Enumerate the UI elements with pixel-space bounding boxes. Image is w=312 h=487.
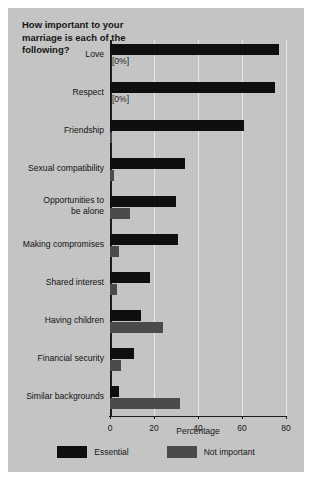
bar-essential-respect [110, 82, 275, 93]
bar-not-important-making-compromises [110, 246, 119, 257]
legend-item-not-important: Not important [167, 446, 255, 458]
category-label-love: Love [8, 49, 104, 60]
bar-essential-love [110, 44, 279, 55]
bar-not-important-shared-interest [110, 284, 117, 295]
x-tick-20 [154, 416, 155, 419]
bar-essential-opportunities-to-be-alone [110, 196, 176, 207]
bar-essential-shared-interest [110, 272, 150, 283]
bar-not-important-having-children [110, 322, 163, 333]
bar-not-important-sexual-compatibility [110, 170, 114, 181]
category-label-financial-security: Financial security [8, 353, 104, 364]
bar-essential-similar-backgrounds [110, 386, 119, 397]
zero-annotation-respect: [0%] [112, 94, 129, 105]
category-label-making-compromises: Making compromises [8, 239, 104, 250]
bar-not-important-friendship [110, 132, 112, 143]
x-tick-80 [286, 416, 287, 419]
bar-essential-friendship [110, 120, 244, 131]
x-tick-0 [110, 416, 111, 419]
legend-swatch-essential [57, 446, 87, 458]
bar-essential-having-children [110, 310, 141, 321]
bar-essential-sexual-compatibility [110, 158, 185, 169]
bar-not-important-opportunities-to-be-alone [110, 208, 130, 219]
category-label-similar-backgrounds: Similar backgrounds [8, 391, 104, 402]
x-tick-60 [242, 416, 243, 419]
category-label-sexual-compatibility: Sexual compatibility [8, 163, 104, 174]
chart-figure: How important to your marriage is each o… [8, 8, 304, 472]
legend-swatch-not-important [167, 446, 197, 458]
category-label-opportunities-to-be-alone: Opportunities to be alone [8, 195, 104, 216]
x-tick-40 [198, 416, 199, 419]
plot-area: 0 20 40 60 80 Love [0%] Respect [0%] Fri… [110, 40, 286, 416]
legend-label-not-important: Not important [204, 447, 255, 457]
legend-label-essential: Essential [94, 447, 129, 457]
chart-legend: Essential Not important [8, 446, 304, 458]
category-label-having-children: Having children [8, 315, 104, 326]
zero-annotation-love: [0%] [112, 56, 129, 67]
gridline-20 [154, 40, 155, 416]
gridline-40 [198, 40, 199, 416]
gridline-60 [242, 40, 243, 416]
bar-essential-making-compromises [110, 234, 178, 245]
category-label-friendship: Friendship [8, 125, 104, 136]
legend-item-essential: Essential [57, 446, 129, 458]
bar-not-important-similar-backgrounds [110, 398, 180, 409]
gridline-80 [286, 40, 287, 416]
x-axis-label: Percentage [110, 426, 286, 436]
bar-not-important-financial-security [110, 360, 121, 371]
bar-essential-financial-security [110, 348, 134, 359]
category-label-shared-interest: Shared interest [8, 277, 104, 288]
category-label-respect: Respect [8, 87, 104, 98]
